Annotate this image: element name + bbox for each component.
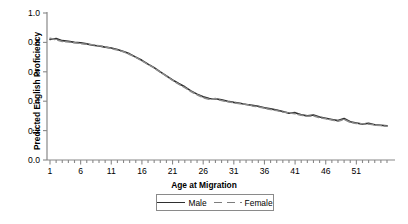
svg-text:31: 31 <box>229 166 239 176</box>
chart-figure: 0.00.20.40.60.81.0 16111621263136414651 … <box>0 0 408 224</box>
legend-swatch-male-icon <box>157 199 185 207</box>
svg-text:41: 41 <box>290 166 300 176</box>
svg-text:1: 1 <box>48 166 53 176</box>
svg-text:26: 26 <box>198 166 208 176</box>
svg-text:21: 21 <box>168 166 178 176</box>
chart-series-lines <box>50 38 387 126</box>
chart-axes <box>47 12 395 160</box>
svg-text:46: 46 <box>321 166 331 176</box>
legend-label-female: Female <box>245 198 273 208</box>
chart-legend: Male Female <box>156 194 274 211</box>
svg-text:16: 16 <box>137 166 147 176</box>
chart-plot-area: 0.00.20.40.60.81.0 16111621263136414651 <box>0 0 408 224</box>
legend-swatch-female-icon <box>214 199 242 207</box>
x-axis-major-ticks <box>50 160 356 165</box>
y-axis-title: Predicted English Proficiency <box>32 11 42 171</box>
legend-item-male: Male <box>157 198 206 208</box>
x-axis-title: Age at Migration <box>0 180 408 190</box>
legend-item-female: Female <box>214 198 273 208</box>
svg-text:6: 6 <box>78 166 83 176</box>
legend-label-male: Male <box>188 198 206 208</box>
svg-text:36: 36 <box>260 166 270 176</box>
svg-text:51: 51 <box>352 166 362 176</box>
x-axis-tick-labels: 16111621263136414651 <box>48 166 362 176</box>
svg-text:11: 11 <box>107 166 116 176</box>
